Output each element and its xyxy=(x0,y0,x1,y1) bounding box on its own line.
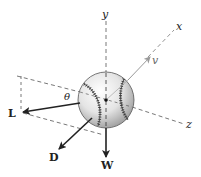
velocity-label: v xyxy=(152,54,159,67)
z-axis xyxy=(132,107,184,124)
z-axis-back xyxy=(17,76,80,92)
y-axis-label: y xyxy=(101,8,109,21)
z-axis-label: z xyxy=(185,118,192,131)
drag-label: D xyxy=(49,151,59,164)
weight-label: W xyxy=(100,159,114,172)
velocity-arrow xyxy=(128,57,150,80)
lift-label: L xyxy=(8,107,16,120)
x-axis-label: x xyxy=(176,20,183,33)
center-point xyxy=(104,98,108,102)
drag-arrow xyxy=(59,118,92,149)
angle-theta-label: θ xyxy=(64,91,70,102)
lift-arrow xyxy=(23,103,80,112)
free-body-diagram: y x v z θ L D W xyxy=(0,0,201,177)
x-axis xyxy=(148,30,174,57)
baseball xyxy=(78,72,134,128)
